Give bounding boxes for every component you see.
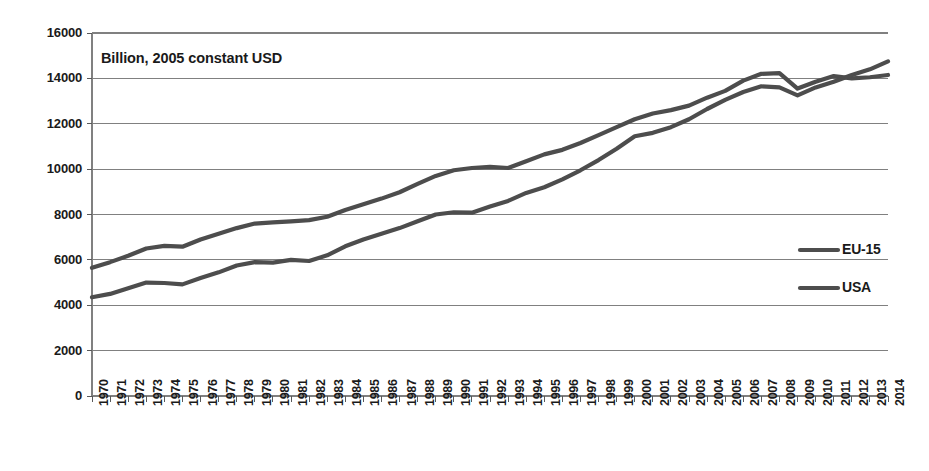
x-tick-label: 2013 [875,379,889,406]
x-tick-label: 1999 [622,379,636,406]
x-tick-label: 1987 [405,379,419,406]
x-tick-label: 1974 [169,379,183,406]
x-tick-label: 1972 [133,379,147,406]
data-series [92,61,888,297]
x-tick-label: 1995 [549,379,563,406]
x-tick-label: 2005 [730,379,744,406]
units-annotation: Billion, 2005 constant USD [101,50,282,66]
x-tick-label: 2003 [694,379,708,406]
x-tick-label: 1994 [531,379,545,406]
x-tick-label: 1977 [224,379,238,406]
x-tick-label: 1984 [350,379,364,406]
x-tick-label: 1970 [97,379,111,406]
gdp-line-chart: 0200040006000800010000120001400016000 19… [0,0,929,471]
y-axis-ticks [87,33,92,396]
x-tick-label: 1973 [151,379,165,406]
x-tick-label: 2009 [803,379,817,406]
x-tick-label: 1975 [187,379,201,406]
y-tick-label: 2000 [0,343,82,358]
x-tick-label: 1981 [296,379,310,406]
x-tick-label: 2000 [640,379,654,406]
y-tick-label: 8000 [0,207,82,222]
x-tick-label: 1988 [423,379,437,406]
legend-swatches [800,250,838,288]
x-tick-label: 2004 [712,379,726,406]
x-tick-label: 2008 [784,379,798,406]
y-tick-label: 12000 [0,116,82,131]
y-tick-label: 14000 [0,70,82,85]
x-tick-label: 1982 [314,379,328,406]
x-tick-label: 1979 [260,379,274,406]
x-tick-label: 2001 [658,379,672,406]
y-tick-label: 10000 [0,161,82,176]
x-tick-label: 2006 [748,379,762,406]
y-tick-label: 16000 [0,25,82,40]
x-tick-label: 2012 [857,379,871,406]
x-tick-label: 1989 [441,379,455,406]
x-tick-label: 2002 [676,379,690,406]
x-tick-label: 1996 [567,379,581,406]
x-tick-label: 2010 [821,379,835,406]
x-tick-label: 1993 [513,379,527,406]
x-tick-label: 1978 [242,379,256,406]
gridlines [92,33,888,351]
x-tick-label: 1971 [115,379,129,406]
legend-item-usa: USA [842,279,871,295]
x-tick-label: 1986 [386,379,400,406]
x-tick-label: 1998 [604,379,618,406]
x-tick-label: 1990 [459,379,473,406]
x-tick-label: 1991 [477,379,491,406]
x-tick-label: 1976 [206,379,220,406]
y-tick-label: 4000 [0,297,82,312]
x-tick-label: 1983 [332,379,346,406]
x-tick-label: 1980 [278,379,292,406]
y-tick-label: 6000 [0,252,82,267]
x-tick-label: 1992 [495,379,509,406]
x-tick-label: 1997 [585,379,599,406]
x-tick-label: 2011 [839,380,853,406]
y-tick-label: 0 [0,388,82,403]
x-tick-label: 2007 [766,379,780,406]
legend-item-eu-15: EU-15 [842,241,881,257]
x-tick-label: 1985 [368,379,382,406]
x-tick-label: 2014 [893,379,907,406]
